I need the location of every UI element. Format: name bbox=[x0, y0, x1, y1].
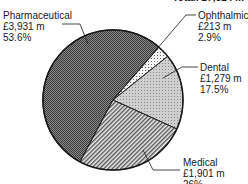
label-value: £3,931 m bbox=[3, 21, 72, 32]
label-name: Ophthalmic bbox=[198, 10, 248, 21]
label-value: £213 m bbox=[198, 21, 248, 32]
label-pharmaceutical: Pharmaceutical £3,931 m 53.6% bbox=[3, 10, 72, 43]
label-medical: Medical £1,901 m 26% bbox=[183, 157, 225, 184]
label-name: Dental bbox=[200, 62, 242, 73]
leader-ophthalmic bbox=[156, 15, 196, 50]
label-pct: 2.9% bbox=[198, 32, 248, 43]
label-dental: Dental £1,279 m 17.5% bbox=[200, 62, 242, 95]
label-name: Medical bbox=[183, 157, 225, 168]
label-pct: 17.5% bbox=[200, 84, 242, 95]
label-name: Pharmaceutical bbox=[3, 10, 72, 21]
label-value: £1,901 m bbox=[183, 168, 225, 179]
label-value: £1,279 m bbox=[200, 73, 242, 84]
label-pct: 26% bbox=[183, 179, 225, 184]
label-ophthalmic: Ophthalmic £213 m 2.9% bbox=[198, 10, 248, 43]
label-pct: 53.6% bbox=[3, 32, 72, 43]
